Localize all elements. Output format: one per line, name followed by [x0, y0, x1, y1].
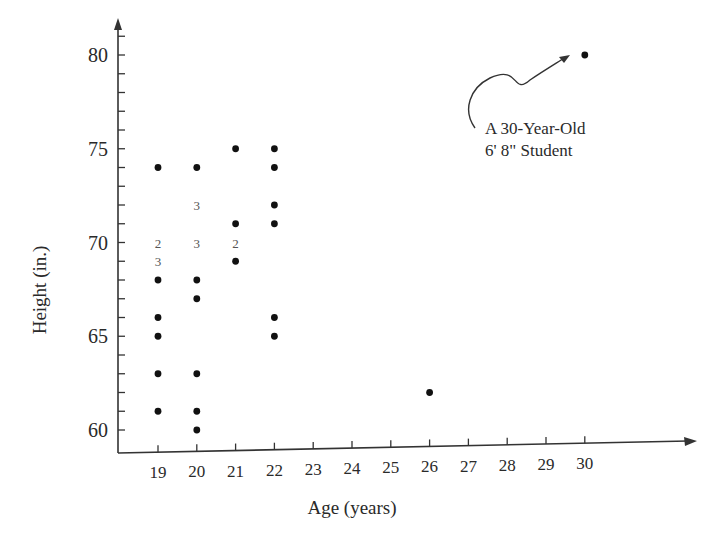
x-axis-label: Age (years) [307, 497, 396, 519]
data-point [271, 202, 278, 209]
y-axis-arrow-icon [114, 18, 122, 30]
annotation-line-1: A 30-Year-Old [485, 119, 586, 138]
x-tick-label: 25 [382, 458, 399, 477]
data-point [155, 333, 162, 340]
y-tick-label: 60 [88, 419, 108, 441]
data-point [232, 220, 239, 227]
data-points: 23332 [155, 52, 589, 434]
arrowhead-icon [559, 55, 570, 63]
data-point [232, 258, 239, 265]
x-tick-label: 20 [188, 462, 205, 481]
x-tick-label: 19 [150, 463, 167, 482]
axes [114, 18, 697, 453]
data-point [271, 314, 278, 321]
y-tick-label: 80 [88, 44, 108, 66]
y-tick-label: 65 [88, 325, 108, 347]
x-tick-label: 23 [305, 460, 322, 479]
x-axis-line [118, 441, 688, 453]
annotation-arrow-curve [469, 57, 566, 128]
point-count-label: 2 [155, 236, 162, 251]
point-count-label: 2 [232, 236, 239, 251]
data-point [271, 333, 278, 340]
data-point [193, 295, 200, 302]
x-tick-label: 30 [576, 454, 593, 473]
scatter-chart: 192021222324252627282930 6065707580 2333… [0, 0, 702, 542]
y-tick-label: 70 [88, 232, 108, 254]
x-tick-label: 22 [266, 461, 283, 480]
data-point [193, 427, 200, 434]
data-point [193, 164, 200, 171]
x-tick-label: 28 [499, 456, 516, 475]
data-point [155, 277, 162, 284]
annotation-line-2: 6' 8" Student [485, 141, 573, 160]
data-point [155, 164, 162, 171]
x-tick-label: 27 [460, 457, 478, 476]
y-axis-ticks: 6065707580 [88, 36, 125, 441]
data-point [155, 370, 162, 377]
data-point [193, 408, 200, 415]
point-count-label: 3 [155, 254, 162, 269]
data-point [271, 145, 278, 152]
data-point [155, 314, 162, 321]
y-axis-label: Height (in.) [29, 246, 51, 335]
data-point [271, 220, 278, 227]
data-point [426, 389, 433, 396]
x-tick-label: 26 [421, 457, 438, 476]
x-tick-label: 29 [538, 455, 555, 474]
data-point [155, 408, 162, 415]
y-tick-label: 75 [88, 138, 108, 160]
point-count-label: 3 [194, 236, 201, 251]
x-tick-label: 21 [227, 462, 244, 481]
data-point [581, 52, 588, 59]
data-point [193, 370, 200, 377]
outlier-annotation: A 30-Year-Old 6' 8" Student [469, 55, 586, 160]
x-axis-arrow-icon [684, 437, 697, 446]
point-count-label: 3 [194, 198, 201, 213]
data-point [232, 145, 239, 152]
x-axis-ticks: 192021222324252627282930 [150, 436, 594, 482]
x-tick-label: 24 [344, 459, 362, 478]
data-point [193, 277, 200, 284]
data-point [271, 164, 278, 171]
